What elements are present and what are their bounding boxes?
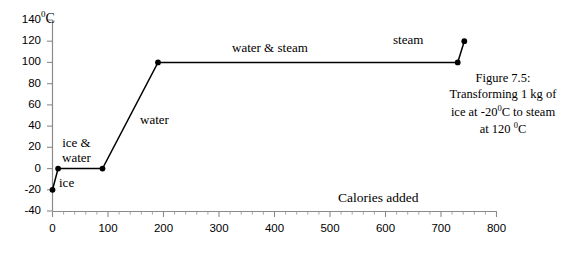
y-tick-label-120: 120 (11, 34, 41, 46)
y-axis-unit-letter: C (46, 11, 55, 26)
x-tick-label-0: 0 (36, 222, 70, 234)
x-tick-label-200: 200 (147, 222, 181, 234)
caption-line-3-text-b: C to steam (502, 105, 555, 119)
x-tick-label-300: 300 (202, 222, 236, 234)
x-tick-label-500: 500 (313, 222, 347, 234)
x-tick-label-700: 700 (424, 222, 458, 234)
caption-line-4: at 120 0C (428, 120, 578, 137)
figure-heating-curve: 140 120 100 80 60 40 20 0 -20 -40 0C 0 1… (0, 0, 584, 260)
x-tick-label-600: 600 (369, 222, 403, 234)
y-tick-label-140: 140 (11, 13, 41, 25)
caption-line-3: ice at -200C to steam (428, 103, 578, 120)
figure-caption: Figure 7.5: Transforming 1 kg of ice at … (428, 70, 578, 137)
y-tick-label-neg40: -40 (11, 204, 41, 216)
region-label-ice-and-water-line2: water (62, 150, 91, 165)
region-label-steam: steam (393, 33, 423, 47)
heating-curve-markers (50, 38, 468, 192)
data-point-marker (455, 60, 461, 66)
y-tick-label-0: 0 (11, 162, 41, 174)
x-axis-title: Calories added (338, 191, 419, 205)
caption-line-3-text-a: ice at -20 (451, 105, 498, 119)
region-label-ice: ice (59, 176, 74, 190)
region-label-ice-and-water: ice & water (62, 135, 91, 166)
y-tick-label-40: 40 (11, 119, 41, 131)
y-tick-label-80: 80 (11, 77, 41, 89)
y-tick-label-60: 60 (11, 98, 41, 110)
y-tick-label-20: 20 (11, 140, 41, 152)
y-tick-label-100: 100 (11, 55, 41, 67)
y-tick-label-neg20: -20 (11, 183, 41, 195)
x-tick-label-800: 800 (480, 222, 514, 234)
y-axis-unit-label: 0C (41, 10, 55, 26)
region-label-water: water (140, 113, 169, 127)
caption-line-4-text-b: C (518, 122, 526, 136)
y-axis-major-ticks (47, 20, 53, 211)
data-point-marker (55, 166, 61, 172)
data-point-marker (155, 60, 161, 66)
caption-line-1: Figure 7.5: (428, 70, 578, 86)
region-label-water-and-steam: water & steam (232, 41, 308, 55)
caption-line-2: Transforming 1 kg of (428, 86, 578, 102)
caption-line-4-text-a: at 120 (480, 122, 514, 136)
data-point-marker (50, 187, 56, 193)
x-tick-label-400: 400 (258, 222, 292, 234)
data-point-marker (461, 38, 467, 44)
x-tick-label-100: 100 (91, 222, 125, 234)
data-point-marker (100, 166, 106, 172)
heating-curve-line (53, 41, 465, 190)
region-label-ice-and-water-line1: ice & (62, 135, 91, 150)
